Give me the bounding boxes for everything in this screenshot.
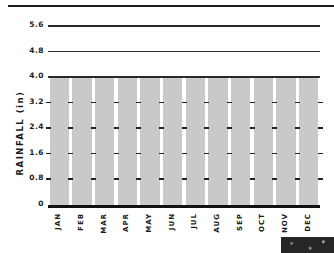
bar-dec: [299, 78, 319, 205]
tick-dash: [250, 102, 255, 104]
tick-dash: [68, 153, 73, 155]
tick-dash: [46, 102, 51, 104]
tick-dash: [295, 153, 300, 155]
tick-dash: [318, 178, 323, 180]
bar-jun: [163, 78, 183, 205]
y-tick-label: 4.8: [14, 46, 44, 55]
tick-dash: [68, 178, 73, 180]
gridline: [48, 51, 320, 53]
tick-dash: [272, 127, 277, 129]
bar-mar: [95, 78, 115, 205]
bar-sep: [231, 78, 251, 205]
tick-dash: [295, 102, 300, 104]
tick-dash: [295, 178, 300, 180]
x-tick-label: JUN: [168, 213, 178, 243]
tick-dash: [204, 178, 209, 180]
tick-dash: [204, 153, 209, 155]
tick-dash: [159, 127, 164, 129]
tick-dash: [136, 153, 141, 155]
tick-dash: [295, 127, 300, 129]
tick-dash: [318, 102, 323, 104]
tick-dash: [227, 178, 232, 180]
x-tick-label: OCT: [258, 213, 268, 243]
tick-dash: [250, 153, 255, 155]
tick-dash: [91, 178, 96, 180]
bar-may: [140, 78, 160, 205]
x-tick-label: MAY: [145, 213, 155, 243]
tick-dash: [250, 127, 255, 129]
x-tick-label: MAR: [100, 213, 110, 243]
tick-dash: [318, 153, 323, 155]
tick-dash: [46, 178, 51, 180]
tick-dash: [159, 153, 164, 155]
tick-dash: [91, 127, 96, 129]
scan-artifact: [281, 237, 334, 253]
gridline: [48, 25, 320, 27]
tick-dash: [114, 127, 119, 129]
tick-dash: [136, 102, 141, 104]
tick-dash: [114, 102, 119, 104]
x-tick-label: JUL: [190, 213, 200, 243]
bar-oct: [254, 78, 274, 205]
y-tick-label: 1.6: [14, 148, 44, 157]
tick-dash: [182, 127, 187, 129]
bar-nov: [276, 78, 296, 205]
tick-dash: [136, 127, 141, 129]
tick-dash: [91, 153, 96, 155]
tick-dash: [227, 127, 232, 129]
tick-dash: [46, 127, 51, 129]
top-rule: [8, 5, 334, 7]
tick-dash: [204, 127, 209, 129]
tick-dash: [68, 102, 73, 104]
tick-dash: [250, 178, 255, 180]
y-tick-label: 3.2: [14, 97, 44, 106]
tick-dash: [272, 153, 277, 155]
tick-dash: [204, 102, 209, 104]
tick-dash: [159, 102, 164, 104]
y-tick-label: 5.6: [14, 20, 44, 29]
tick-dash: [318, 127, 323, 129]
tick-dash: [182, 178, 187, 180]
y-tick-label: 4.0: [14, 71, 44, 80]
x-tick-label: AUG: [213, 213, 223, 243]
tick-dash: [227, 153, 232, 155]
tick-dash: [159, 178, 164, 180]
bar-jul: [186, 78, 206, 205]
y-tick-label: 0.8: [14, 173, 44, 182]
bar-apr: [118, 78, 138, 205]
rainfall-bar-chart: RAINFALL (in) 00.81.62.43.24.04.85.6 JAN…: [0, 0, 334, 253]
x-tick-label: SEP: [236, 213, 246, 243]
bar-feb: [72, 78, 92, 205]
tick-dash: [227, 102, 232, 104]
tick-dash: [114, 153, 119, 155]
x-tick-label: APR: [122, 213, 132, 243]
x-tick-label: FEB: [77, 213, 87, 243]
tick-dash: [114, 178, 119, 180]
y-tick-label: 0: [14, 199, 44, 208]
bar-jan: [50, 78, 70, 205]
tick-dash: [182, 153, 187, 155]
tick-dash: [46, 153, 51, 155]
tick-dash: [68, 127, 73, 129]
tick-dash: [91, 102, 96, 104]
tick-dash: [272, 102, 277, 104]
tick-dash: [136, 178, 141, 180]
x-axis-baseline: [48, 205, 320, 208]
x-tick-label: JAN: [54, 213, 64, 243]
y-tick-label: 2.4: [14, 122, 44, 131]
tick-dash: [182, 102, 187, 104]
tick-dash: [272, 178, 277, 180]
bar-aug: [208, 78, 228, 205]
